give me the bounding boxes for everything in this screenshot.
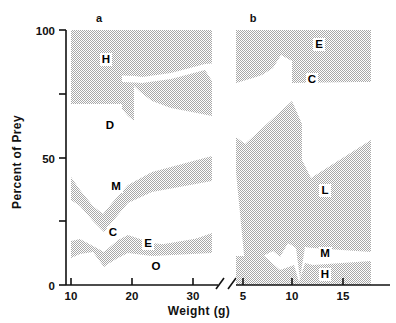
band-label-b-M: M — [320, 247, 330, 259]
band-label-b-C: C — [308, 73, 316, 85]
band-b-H — [236, 254, 371, 285]
panel-a-bands — [71, 30, 212, 267]
band-label-a-H: H — [102, 53, 110, 65]
panel-a-label: a — [96, 12, 103, 24]
band-b-L — [236, 101, 371, 279]
band-a-D — [122, 70, 212, 121]
band-label-a-D: D — [106, 119, 114, 131]
x-ticklabel-b-5: 5 — [240, 290, 247, 302]
y-ticklabel-0: 0 — [49, 280, 55, 292]
band-label-a-C: C — [109, 226, 117, 238]
y-axis-title: Percent of Prey — [10, 115, 24, 209]
panel-b: E C L M H 5 10 15 b — [236, 12, 390, 302]
figure-svg: H D M C E O 100 50 0 Percent of Prey — [0, 0, 396, 323]
panel-b-bands — [236, 30, 371, 285]
band-label-b-E: E — [315, 38, 323, 50]
axis-break-left — [216, 278, 224, 289]
y-axis: 100 50 0 Percent of Prey — [10, 25, 66, 292]
band-label-b-H: H — [321, 268, 329, 280]
x-ticklabel-b-15: 15 — [337, 290, 350, 302]
band-b-E — [236, 30, 371, 83]
x-ticklabel-b-10: 10 — [286, 290, 299, 302]
band-label-a-E: E — [144, 237, 152, 249]
x-axis-title: Weight (g) — [168, 304, 230, 318]
band-a-M — [71, 148, 212, 232]
x-axis-panel-a: 10 20 30 — [65, 278, 236, 302]
x-ticklabel-a-30: 30 — [187, 290, 200, 302]
panel-b-label: b — [250, 12, 257, 24]
x-ticklabel-a-20: 20 — [126, 290, 139, 302]
band-label-a-O: O — [152, 260, 161, 272]
y-ticklabel-50: 50 — [42, 153, 55, 165]
band-label-b-L: L — [321, 184, 328, 196]
band-label-a-M: M — [111, 180, 121, 192]
y-ticklabel-100: 100 — [36, 25, 55, 37]
x-ticklabel-a-10: 10 — [65, 290, 78, 302]
axis-break-right — [228, 278, 236, 289]
panel-a: H D M C E O 100 50 0 Percent of Prey — [10, 12, 236, 302]
